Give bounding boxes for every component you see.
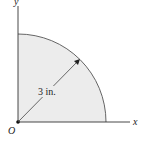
y-axis-label: y [13, 0, 19, 7]
radius-label: 3 in. [38, 86, 56, 97]
origin-label: O [8, 125, 15, 136]
quarter-circle-diagram: 3 in. y x O [0, 0, 147, 147]
x-axis-label: x [132, 116, 138, 127]
